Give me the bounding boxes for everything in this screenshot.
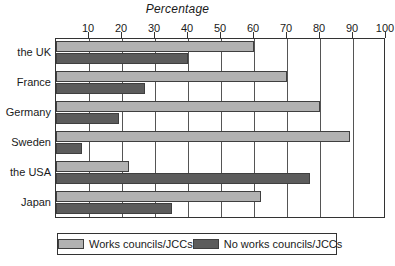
category-label-sweden: Sweden (0, 136, 51, 148)
x-axis-tickmark-30 (154, 32, 155, 38)
x-axis-tickmark-90 (352, 32, 353, 38)
legend-swatch-0 (58, 239, 84, 249)
legend-entry-0: Works councils/JCCs (58, 238, 193, 250)
x-axis-tickmark-20 (121, 32, 122, 38)
category-label-japan: Japan (0, 196, 51, 208)
bar-the-usa-series-1 (56, 173, 310, 184)
legend-entry-1: No works councils/JCCs (193, 238, 343, 250)
x-axis-tickmark-60 (253, 32, 254, 38)
bar-sweden-series-1 (56, 143, 82, 154)
bar-japan-series-1 (56, 203, 172, 214)
percentage-bar-chart: Percentage 102030405060708090100 the UKF… (0, 0, 395, 266)
bar-row (56, 69, 384, 99)
bar-france-series-1 (56, 83, 145, 94)
chart-title: Percentage (0, 2, 355, 16)
x-axis-tickmark-50 (220, 32, 221, 38)
bar-the-usa-series-0 (56, 161, 129, 172)
legend-swatch-1 (193, 239, 219, 249)
y-axis-category-labels: the UKFranceGermanySwedenthe USAJapan (0, 38, 51, 218)
bar-japan-series-0 (56, 191, 261, 202)
category-label-france: France (0, 76, 51, 88)
bar-germany-series-1 (56, 113, 119, 124)
bar-row (56, 39, 384, 69)
x-axis-tickmark-10 (88, 32, 89, 38)
bar-france-series-0 (56, 71, 287, 82)
category-label-the-uk: the UK (0, 46, 51, 58)
x-axis-tickmark-100 (385, 32, 386, 38)
bar-the-uk-series-0 (56, 41, 254, 52)
bar-row (56, 159, 384, 189)
x-axis-tickmark-80 (319, 32, 320, 38)
bar-row (56, 99, 384, 129)
category-label-germany: Germany (0, 106, 51, 118)
bar-sweden-series-0 (56, 131, 350, 142)
chart-legend: Works councils/JCCsNo works councils/JCC… (57, 233, 337, 255)
legend-label-0: Works councils/JCCs (89, 238, 193, 250)
bar-the-uk-series-1 (56, 53, 188, 64)
legend-label-1: No works councils/JCCs (224, 238, 343, 250)
plot-area (55, 38, 385, 218)
bar-row (56, 189, 384, 219)
bar-row (56, 129, 384, 159)
bar-germany-series-0 (56, 101, 320, 112)
x-axis-tickmark-40 (187, 32, 188, 38)
x-axis-tickmark-70 (286, 32, 287, 38)
category-label-the-usa: the USA (0, 166, 51, 178)
